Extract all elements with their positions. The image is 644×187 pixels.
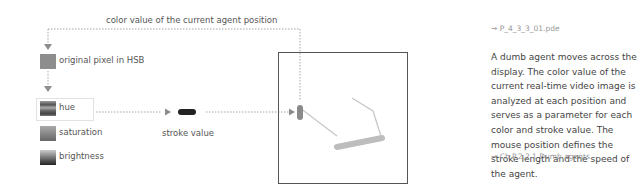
source-filename: → P_4_3_3_01.pde <box>491 24 560 33</box>
description-text: A dumb agent moves across the display. T… <box>491 50 641 181</box>
agent-head <box>297 105 303 120</box>
chapter-reference-link[interactable]: → Ch.P.2.2.1 Dumb agents <box>491 152 590 161</box>
